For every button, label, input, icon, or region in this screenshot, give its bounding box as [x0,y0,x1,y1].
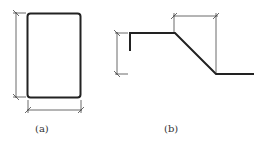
figure-a-label: (a) [35,123,49,134]
height-dimension-a [13,10,26,100]
height-dimension-b [114,30,128,77]
run-dimension-b [171,13,219,73]
diagram-canvas: (a) (b) [0,0,259,148]
rect-section [28,14,81,98]
figure-b [114,13,254,77]
figure-a [13,10,84,113]
figure-b-label: (b) [164,123,178,134]
bent-bar-profile [130,33,254,74]
width-dimension-a [25,100,84,113]
